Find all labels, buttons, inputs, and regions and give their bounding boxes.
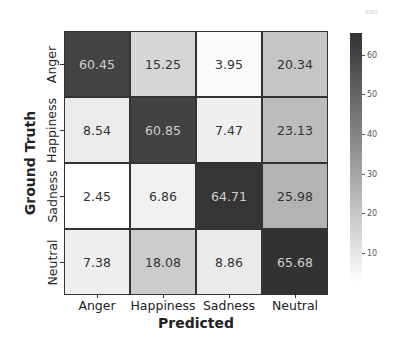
- y-tick-label: Sadness: [42, 163, 62, 229]
- x-tick-label: Anger: [64, 298, 130, 313]
- heatmap-cell: 64.71: [196, 163, 262, 229]
- heatmap-cell: 18.08: [130, 229, 196, 295]
- y-tick-label: Happiness: [42, 97, 62, 163]
- x-tick-mark: [97, 295, 98, 298]
- x-tick-mark: [163, 295, 164, 298]
- colorbar-tick: 20: [362, 209, 377, 219]
- x-tick-mark: [295, 295, 296, 298]
- y-axis-label-text: Ground Truth: [22, 111, 38, 215]
- heatmap-cell: 20.34: [262, 31, 328, 97]
- heatmap-cell: 65.68: [262, 229, 328, 295]
- heatmap-cell: 15.25: [130, 31, 196, 97]
- colorbar: [350, 33, 362, 283]
- x-tick-mark: [229, 295, 230, 298]
- corner-watermark: RBG: [365, 8, 378, 15]
- heatmap-cell: 6.86: [130, 163, 196, 229]
- y-tick-label: Anger: [42, 31, 62, 97]
- colorbar-tick: 50: [362, 90, 377, 100]
- x-tick-label: Happiness: [130, 298, 196, 313]
- colorbar-tick: 30: [362, 169, 377, 179]
- colorbar-tick: 10: [362, 248, 377, 258]
- heatmap-cell: 7.38: [64, 229, 130, 295]
- heatmap-cell: 8.54: [64, 97, 130, 163]
- y-axis-label: Ground Truth: [18, 31, 42, 295]
- heatmap-cell: 3.95: [196, 31, 262, 97]
- heatmap-cell: 25.98: [262, 163, 328, 229]
- confusion-matrix-heatmap: 60.4515.253.9520.348.5460.857.4723.132.4…: [64, 31, 328, 295]
- heatmap-cell: 2.45: [64, 163, 130, 229]
- heatmap-cell: 60.85: [130, 97, 196, 163]
- x-tick-label: Sadness: [196, 298, 262, 313]
- colorbar-tick: 40: [362, 130, 377, 140]
- heatmap-cell: 60.45: [64, 31, 130, 97]
- x-tick-label: Neutral: [262, 298, 328, 313]
- heatmap-cell: 8.86: [196, 229, 262, 295]
- x-axis-label: Predicted: [64, 315, 328, 331]
- colorbar-tick: 60: [362, 50, 377, 60]
- heatmap-cell: 7.47: [196, 97, 262, 163]
- heatmap-cell: 23.13: [262, 97, 328, 163]
- y-tick-label: Neutral: [42, 229, 62, 295]
